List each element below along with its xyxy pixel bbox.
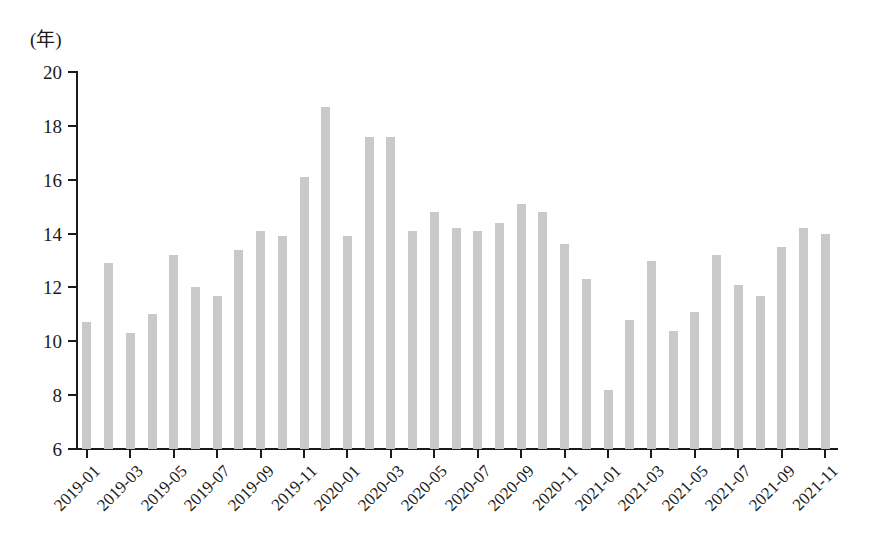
bar [191, 287, 200, 449]
bar [321, 107, 330, 449]
plot-area [76, 72, 836, 449]
x-axis-tick [260, 450, 262, 458]
bar [756, 296, 765, 449]
bar [495, 223, 504, 449]
x-axis-tick [737, 450, 739, 458]
bar [104, 263, 113, 449]
y-axis-tick-label: 20 [22, 63, 62, 82]
x-axis-tick [303, 450, 305, 458]
bar [126, 333, 135, 449]
bar [690, 312, 699, 449]
bar [386, 137, 395, 449]
bar [777, 247, 786, 449]
x-axis-tick [86, 450, 88, 458]
bar [148, 314, 157, 449]
bar [365, 137, 374, 449]
bar [452, 228, 461, 449]
x-axis-tick [346, 450, 348, 458]
bar [169, 255, 178, 449]
bar [604, 390, 613, 449]
bar [669, 331, 678, 449]
bar [625, 320, 634, 449]
x-axis-tick [824, 450, 826, 458]
bar [517, 204, 526, 449]
bar [278, 236, 287, 449]
x-axis-tick [433, 450, 435, 458]
y-axis-tick-label: 10 [22, 332, 62, 351]
bar [712, 255, 721, 449]
bar [734, 285, 743, 449]
bar [343, 236, 352, 449]
y-axis-tick-label: 12 [22, 278, 62, 297]
x-axis-tick [650, 450, 652, 458]
bar [82, 322, 91, 449]
y-axis-tick-label: 8 [22, 386, 62, 405]
x-axis-tick [781, 450, 783, 458]
y-axis-tick-label: 16 [22, 170, 62, 189]
x-axis-tick [694, 450, 696, 458]
bar [799, 228, 808, 449]
bar [582, 279, 591, 449]
x-axis-tick [477, 450, 479, 458]
y-axis-unit-label: (年) [30, 30, 62, 49]
x-axis-tick [564, 450, 566, 458]
y-axis-tick [68, 125, 76, 127]
bar [821, 234, 830, 449]
y-axis-tick [68, 71, 76, 73]
y-axis-tick-label: 6 [22, 440, 62, 459]
y-axis-tick [68, 233, 76, 235]
bar [256, 231, 265, 449]
bar [473, 231, 482, 449]
y-axis-tick [68, 340, 76, 342]
x-axis-tick [129, 450, 131, 458]
bar [647, 261, 656, 450]
x-axis-tick [607, 450, 609, 458]
bar [300, 177, 309, 449]
bar [560, 244, 569, 449]
y-axis-tick [68, 394, 76, 396]
bar [408, 231, 417, 449]
x-axis-tick [520, 450, 522, 458]
y-axis-tick-label: 18 [22, 116, 62, 135]
x-axis-tick [173, 450, 175, 458]
y-axis-tick [68, 179, 76, 181]
bar [234, 250, 243, 449]
y-axis-tick-label: 14 [22, 224, 62, 243]
y-axis-tick [68, 448, 76, 450]
x-axis-tick [390, 450, 392, 458]
bar [538, 212, 547, 449]
bar-chart: (年) 68101214161820 2019-012019-032019-05… [0, 0, 871, 558]
bar [213, 296, 222, 449]
y-axis-tick [68, 286, 76, 288]
x-axis-tick [216, 450, 218, 458]
bar [430, 212, 439, 449]
